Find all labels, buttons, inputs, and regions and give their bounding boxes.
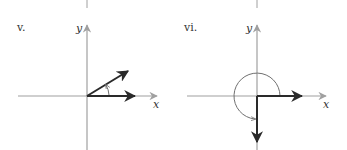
angle-arc-icon <box>106 85 109 95</box>
panel-label-vi: vi. <box>183 21 197 34</box>
diagram-canvas: v. y x vi. y x <box>0 0 347 150</box>
panel-label-v: v. <box>16 21 25 34</box>
y-axis-label: y <box>75 22 83 35</box>
x-axis-label: x <box>323 98 330 111</box>
panel-v: v. y x <box>16 21 160 150</box>
x-axis-label: x <box>153 98 160 111</box>
vector-angled <box>87 71 128 96</box>
panel-vi: vi. y x <box>183 21 330 150</box>
y-axis-label: y <box>245 22 253 35</box>
